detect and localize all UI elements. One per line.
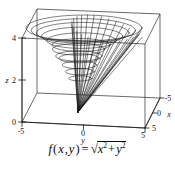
y-tick-label-5: 5: [141, 131, 145, 140]
caption-paren-close: ): [74, 142, 80, 156]
z-tick-label-2: 2: [12, 76, 16, 85]
figure-caption: f(x,y)=√x2+y2: [0, 141, 175, 157]
cone-radial-lines: [72, 15, 142, 112]
x-axis-label: x: [166, 110, 171, 119]
caption-arg-x: x: [58, 142, 64, 156]
z-tick-label-0: 0: [12, 118, 16, 127]
z-tick-label-4: 4: [12, 34, 16, 43]
axis-lines: [19, 38, 165, 133]
z-axis-label: z: [4, 76, 9, 85]
caption-radical: √x2+y2: [90, 141, 127, 157]
figure-container: 4 2 0 z -5 0 5 y 5 0 -5 x f(x,y)=√x2+y2: [0, 0, 175, 169]
caption-plus: +: [107, 142, 116, 156]
plot-bounding-box: [22, 9, 160, 128]
x-tick-label-5: 5: [152, 124, 156, 133]
radical-body: x2+y2: [97, 141, 127, 157]
cone-wireframe: [26, 15, 142, 112]
y-tick-label-neg5: -5: [18, 127, 25, 136]
caption-equals: =: [81, 142, 90, 156]
x-tick-label-0: 0: [157, 109, 161, 118]
caption-exponent-y: 2: [122, 140, 126, 149]
x-tick-label-neg5: -5: [165, 94, 172, 103]
